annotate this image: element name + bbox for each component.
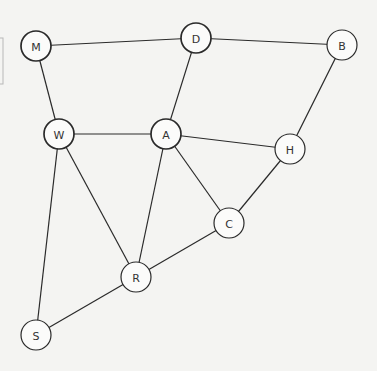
edge-a-h [166, 134, 290, 149]
node-label: H [286, 144, 294, 157]
nodes-layer: MDBWAHCRS [21, 23, 357, 350]
graph-diagram: MDBWAHCRS [0, 0, 377, 371]
edge-a-r [136, 134, 166, 277]
node-label: B [338, 40, 346, 53]
node-label: S [33, 330, 40, 343]
margin-box-fragment [0, 38, 3, 84]
edge-w-s [36, 134, 59, 335]
node-r: R [121, 262, 151, 292]
node-label: R [132, 272, 140, 285]
node-label: D [192, 33, 200, 46]
edge-w-r [59, 134, 136, 277]
node-label: W [54, 129, 65, 142]
edge-r-s [36, 277, 136, 335]
node-b: B [327, 30, 357, 60]
node-label: C [225, 218, 233, 231]
graph-canvas: MDBWAHCRS [0, 0, 377, 371]
node-s: S [21, 320, 51, 350]
node-d: D [181, 23, 211, 53]
edges-layer [36, 38, 342, 335]
node-label: A [162, 129, 170, 142]
node-m: M [21, 31, 51, 61]
edge-d-b [196, 38, 342, 45]
edge-b-h [290, 45, 342, 149]
node-w: W [44, 119, 74, 149]
node-label: M [31, 41, 41, 54]
node-c: C [214, 208, 244, 238]
edge-a-c [166, 134, 229, 223]
node-a: A [151, 119, 181, 149]
node-h: H [275, 134, 305, 164]
edge-m-d [36, 38, 196, 46]
edge-c-r [136, 223, 229, 277]
